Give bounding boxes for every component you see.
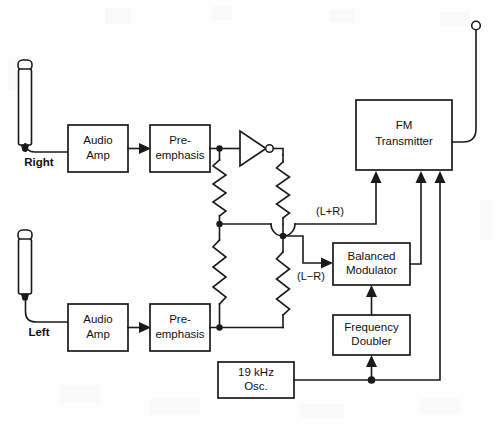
antenna-icon [452,30,476,142]
microphone-right [18,60,32,151]
microphone-body-left [19,239,32,294]
schematic-canvas: Right Audio Amp Pre- emphasis Left Audio… [0,0,497,427]
block-balanced-modulator-line1: Balanced [348,250,396,262]
antenna-tip [472,21,481,30]
inverter-gate [240,131,273,166]
block-frequency-doubler-line2: Doubler [351,335,391,347]
wire-difference-to-modulator [283,236,321,263]
block-pre-emphasis-left-line2: emphasis [155,328,204,340]
microphone-left [18,230,32,300]
block-frequency-doubler-line1: Frequency [344,321,399,333]
wire-mic-left-cable [26,300,71,322]
wire-sum-to-fm [295,183,376,224]
wire-modulator-to-fm [410,183,421,264]
block-audio-amp-right-line2: Amp [86,149,110,161]
arrowhead-doubler-into-modulator [366,285,377,297]
label-signal-difference: (L−R) [297,270,325,282]
arrowhead-sum-into-fm [371,171,382,183]
arrowhead-difference-into-modulator [321,258,333,269]
inverter-triangle [240,131,266,166]
block-audio-amp-right-line1: Audio [83,134,112,146]
arrowhead-osc-into-doubler [366,355,377,367]
scan-noise [8,6,492,418]
block-fm-transmitter-line2: Transmitter [375,135,433,147]
resistor-r3-left-lower [213,224,226,328]
fm-stereo-block-diagram: Right Audio Amp Pre- emphasis Left Audio… [0,0,497,427]
wire-mic-right-cable [26,143,71,152]
label-left-channel: Left [28,326,49,338]
label-signal-sum: (L+R) [316,205,344,217]
resistor-r4-right-lower [277,236,290,328]
block-audio-amp-left-line2: Amp [86,328,110,340]
arrowhead-modulator-into-fm [416,171,427,183]
resistor-r2-right-upper [277,155,290,224]
block-19khz-osc-line1: 19 kHz [238,366,274,378]
block-fm-transmitter-line1: FM [396,119,413,131]
block-audio-amp-left-line1: Audio [83,313,112,325]
block-balanced-modulator-line2: Modulator [346,264,397,276]
inverter-bubble [266,145,274,153]
block-pre-emphasis-left-line1: Pre- [169,313,191,325]
block-pre-emphasis-right-line1: Pre- [169,134,191,146]
block-pre-emphasis-right-line2: emphasis [155,149,204,161]
wire-inverter-out [274,149,284,156]
label-right-channel: Right [24,156,54,168]
arrowhead-pilot-into-fm [435,171,446,183]
block-19khz-osc-line2: Osc. [244,380,268,392]
microphone-body [19,69,32,145]
resistor-r1-left-upper [213,151,226,224]
microphone-base-left [22,294,29,300]
